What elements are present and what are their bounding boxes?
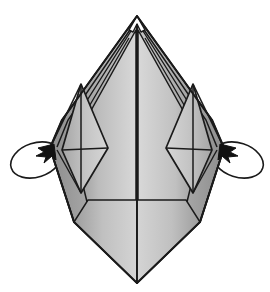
origami-figure: Origami folding step diagram Symmetric d… [0, 0, 270, 292]
right-lower-face [137, 200, 200, 283]
left-lower-face [74, 200, 137, 283]
origami-illustration [0, 0, 270, 292]
